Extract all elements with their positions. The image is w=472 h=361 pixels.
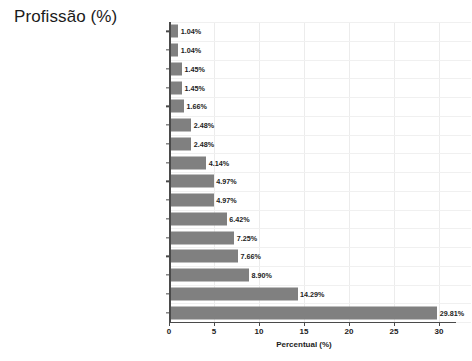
bar-value-label: 1.45% [182,64,205,73]
bar [169,175,214,188]
plot-area: Economista1.04%Engenheiro1.04%Comerciant… [169,22,439,322]
y-axis-line [169,22,171,322]
bar [169,119,191,132]
bar-value-label: 2.48% [191,121,214,130]
page-title: Profissão (%) [14,7,117,27]
bar-value-label: 1.66% [184,102,207,111]
bar-value-label: 7.66% [238,252,261,261]
bar-row: Estudante29.81% [169,303,439,322]
bar-value-label: 4.97% [214,177,237,186]
bar-row: Jornalista4.14% [169,153,439,172]
bar [169,81,182,94]
x-axis-tick-label: 0 [167,327,171,336]
x-axis-line [169,322,456,323]
bar [169,250,238,263]
bar [169,231,234,244]
bar [169,62,182,75]
x-axis-tick [394,322,395,326]
bar-value-label: 29.81% [437,308,464,317]
bar [169,194,214,207]
bar [169,156,206,169]
x-axis-tick-label: 30 [435,327,444,336]
bar-row: Professora/Professor4.97% [169,172,439,191]
bar-value-label: 4.14% [206,158,229,167]
bar-row: Engenheiro1.04% [169,41,439,60]
x-axis-tick-label: 15 [300,327,309,336]
bar [169,287,298,300]
bar-row: Outros14.29% [169,285,439,304]
x-axis-tick-label: 20 [345,327,354,336]
bar [169,100,184,113]
bar-value-label: 6.42% [227,214,250,223]
chart-figure: Profissão (%) Economista1.04%Engenheiro1… [0,0,472,361]
bar [169,269,249,282]
bar-row: Trabalhador rural7.25% [169,228,439,247]
x-axis-tick [214,322,215,326]
x-axis-tick [259,322,260,326]
bar [169,212,227,225]
bar-value-label: 7.25% [234,233,257,242]
x-axis-tick [349,322,350,326]
bar-row: Político2.48% [169,135,439,154]
x-axis-tick [439,322,440,326]
bar-value-label: 4.97% [214,196,237,205]
bar-value-label: 1.04% [178,27,201,36]
bar-row: Advogado1.66% [169,97,439,116]
bar-value-label: 2.48% [191,139,214,148]
bar-value-label: 1.45% [182,83,205,92]
x-axis-label: Percentual (%) [169,340,439,349]
bar-row: Sindicalista4.97% [169,191,439,210]
bar-row: Militar6.42% [169,210,439,229]
x-axis-tick-label: 5 [212,327,216,336]
bar [169,306,437,319]
bar-row: Funcionária Público/Funcionário Público1… [169,78,439,97]
x-axis-tick [304,322,305,326]
x-axis-tick-label: 25 [390,327,399,336]
x-axis-tick-label: 10 [255,327,264,336]
x-axis-tick [169,322,170,326]
bar-row: Bancária/Bancário2.48% [169,116,439,135]
bar-row: Economista1.04% [169,22,439,41]
bar-row: Comerciante1.45% [169,60,439,79]
bar-row: Não consta7.66% [169,247,439,266]
bar-row: Operária/Operário8.90% [169,266,439,285]
bar-value-label: 1.04% [178,46,201,55]
bar-value-label: 8.90% [249,271,272,280]
bar-value-label: 14.29% [298,289,325,298]
bar [169,137,191,150]
